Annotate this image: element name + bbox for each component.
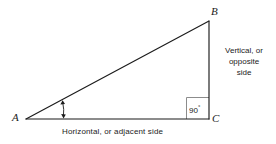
- right-angle-value: 90: [189, 106, 198, 115]
- degree-symbol-icon: °: [198, 104, 200, 110]
- adjacent-side-label: Horizontal, or adjacent side: [62, 127, 163, 137]
- opposite-side-label-line-3: side: [216, 68, 272, 79]
- triangle-figure: A B C Horizontal, or adjacent side Verti…: [0, 0, 276, 144]
- vertex-label-a: A: [12, 112, 19, 123]
- opposite-side-label: Vertical, or opposite side: [216, 46, 272, 78]
- right-angle-label: 90°: [189, 104, 200, 115]
- vertex-label-b: B: [211, 6, 218, 17]
- opposite-side-label-line-2: opposite: [216, 57, 272, 68]
- vertex-label-c: C: [212, 113, 219, 124]
- opposite-side-label-line-1: Vertical, or: [216, 46, 272, 57]
